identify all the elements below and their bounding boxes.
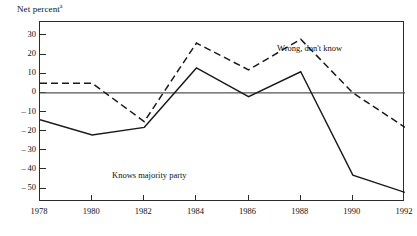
y-axis-tick-label: 10 [10,68,36,77]
x-axis-tick-label: 1984 [175,206,215,216]
y-axis-tick-label: – 10 [10,107,36,116]
y-axis-label-text: Net percent [17,4,60,14]
x-axis-tick-label: 1982 [123,206,163,216]
x-axis-tick-label: 1988 [280,206,320,216]
y-axis-tick-label: – 20 [10,126,36,135]
x-axis-tick-label: 1980 [71,206,111,216]
x-axis-tick-label: 1992 [384,206,417,216]
x-axis-tick-mark [91,195,92,201]
annotation-wrong-dont-know: Wrong, don't know [277,43,342,53]
y-axis-label-superscript: a [60,3,63,9]
plot-area [39,21,404,201]
x-axis-tick-mark [143,195,144,201]
x-axis-tick-mark [300,195,301,201]
series-line-wrong-dont-know [40,39,405,127]
x-axis-tick-marks [39,195,404,203]
x-axis-tick-label: 1986 [228,206,268,216]
y-axis-label: Net percenta [17,4,63,15]
plot-svg [40,22,405,202]
y-axis-tick-labels: 3020100– 10– 20– 30– 40– 50 [6,21,36,201]
y-axis-tick-label: – 40 [10,164,36,173]
y-axis-tick-label: 30 [10,30,36,39]
x-axis-tick-mark [352,195,353,201]
y-axis-tick-label: 0 [10,87,36,96]
annotation-knows-majority-party: Knows majority party [112,170,187,180]
series-line-knows-majority-party [40,68,405,192]
x-axis-tick-mark [248,195,249,201]
x-axis-tick-label: 1990 [332,206,372,216]
x-axis-tick-labels: 19781980198219841986198819901992 [39,206,404,220]
y-axis-tick-label: – 50 [10,183,36,192]
chart-figure: Net percenta 3020100– 10– 20– 30– 40– 50… [0,0,417,236]
x-axis-tick-label: 1978 [19,206,59,216]
y-axis-tick-label: 20 [10,49,36,58]
x-axis-tick-mark [195,195,196,201]
y-axis-tick-label: – 30 [10,145,36,154]
